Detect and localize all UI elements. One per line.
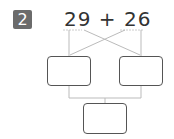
left-answer-box[interactable] xyxy=(47,56,91,86)
result-answer-box[interactable] xyxy=(83,103,127,134)
right-answer-box[interactable] xyxy=(119,56,163,86)
